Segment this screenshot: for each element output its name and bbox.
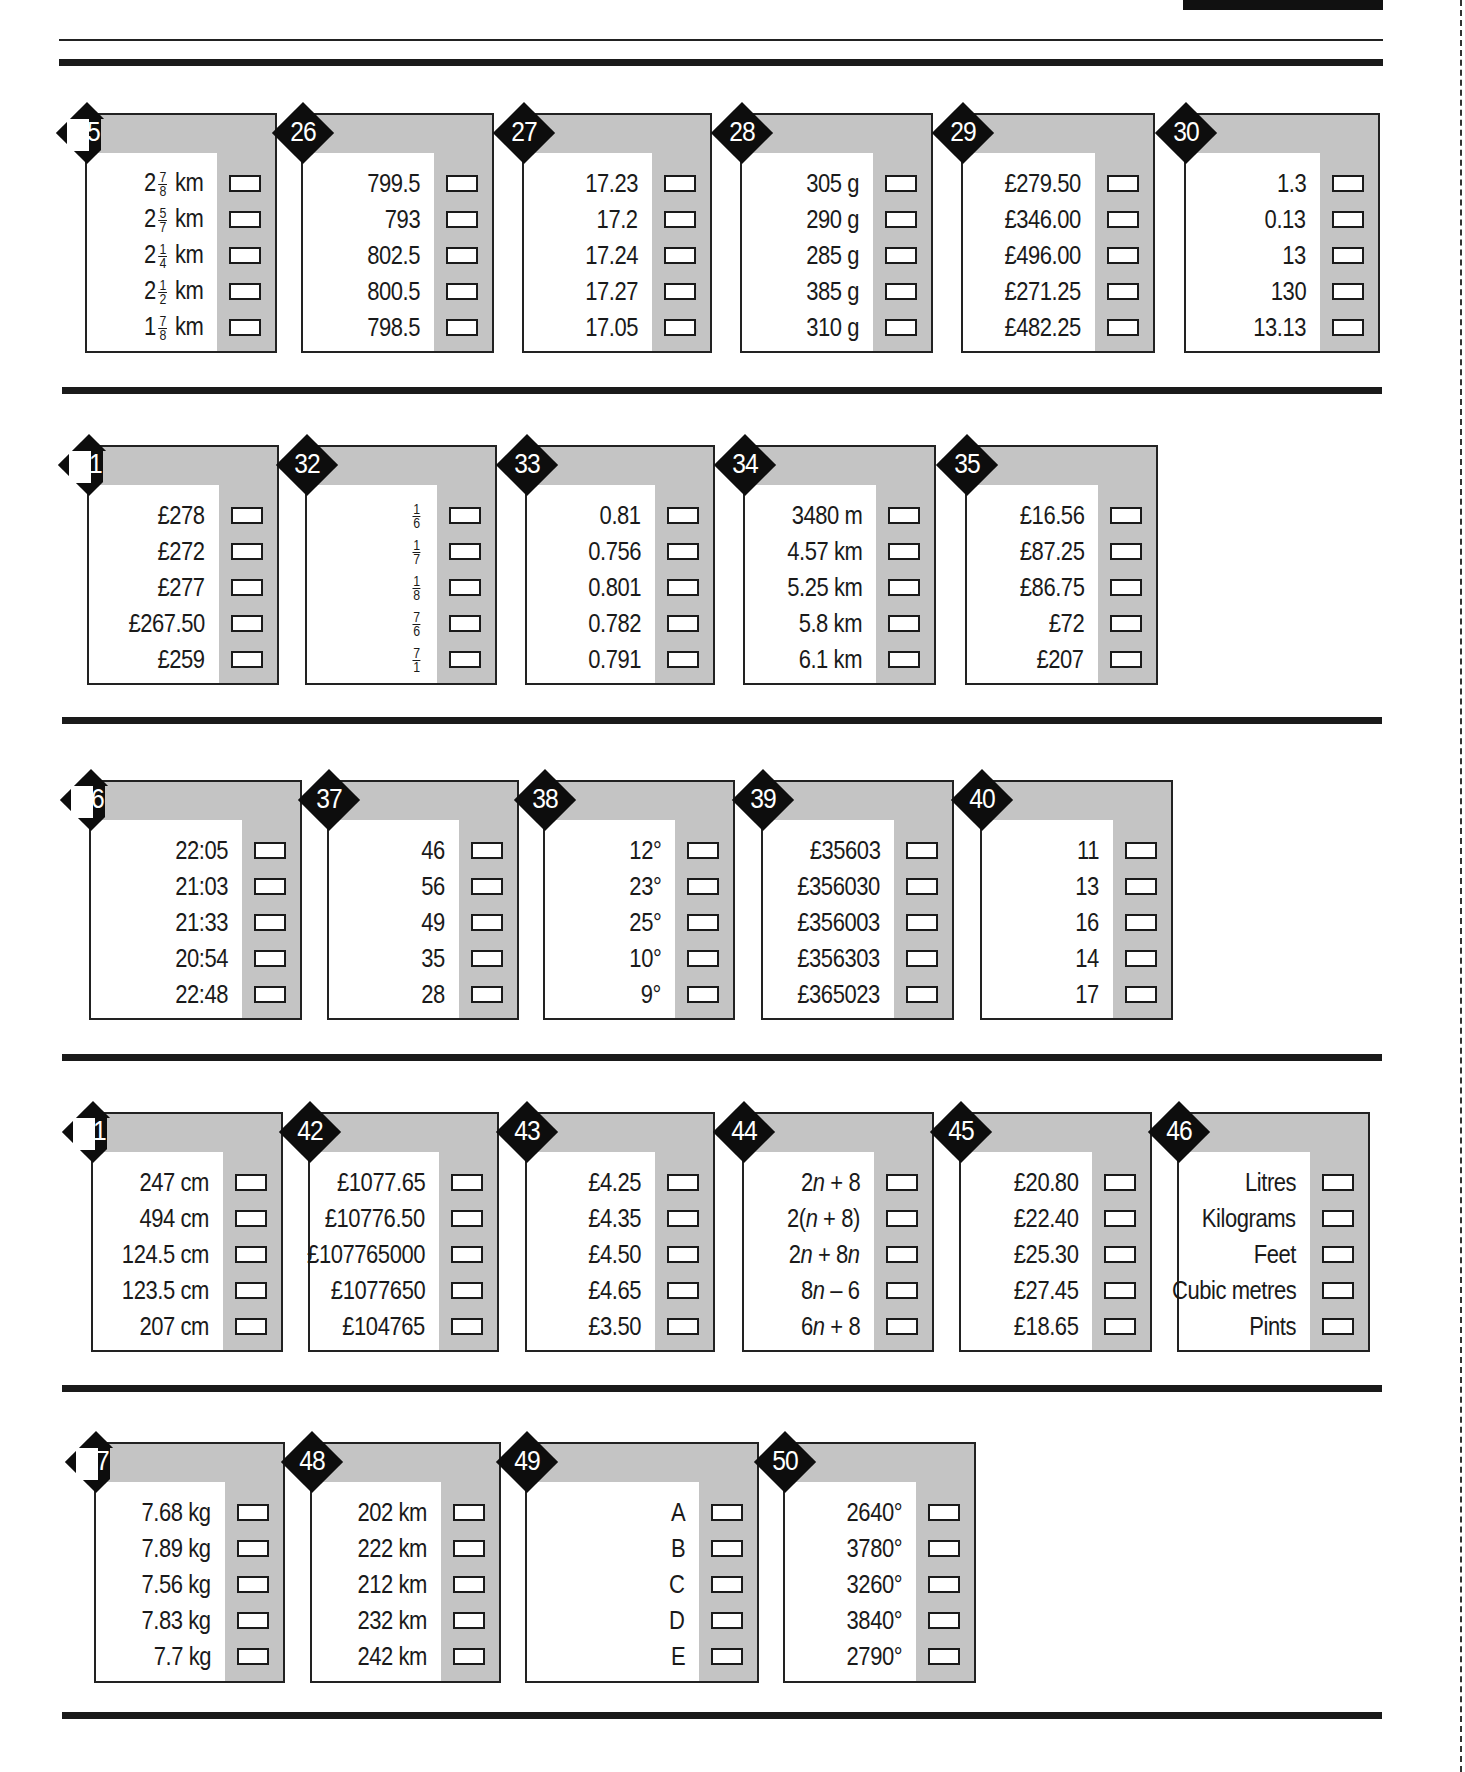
- answer-checkbox[interactable]: [1107, 211, 1139, 228]
- answer-checkbox[interactable]: [1125, 914, 1157, 931]
- answer-checkbox[interactable]: [667, 1282, 699, 1299]
- answer-checkbox[interactable]: [1332, 283, 1364, 300]
- answer-checkbox[interactable]: [928, 1648, 960, 1665]
- answer-checkbox[interactable]: [667, 507, 699, 524]
- answer-checkbox[interactable]: [453, 1648, 485, 1665]
- answer-checkbox[interactable]: [1107, 175, 1139, 192]
- answer-checkbox[interactable]: [888, 651, 920, 668]
- answer-checkbox[interactable]: [888, 543, 920, 560]
- answer-checkbox[interactable]: [254, 842, 286, 859]
- answer-checkbox[interactable]: [453, 1540, 485, 1557]
- answer-checkbox[interactable]: [888, 507, 920, 524]
- answer-checkbox[interactable]: [237, 1612, 269, 1629]
- answer-checkbox[interactable]: [235, 1282, 267, 1299]
- answer-checkbox[interactable]: [451, 1318, 483, 1335]
- answer-checkbox[interactable]: [928, 1540, 960, 1557]
- answer-checkbox[interactable]: [888, 579, 920, 596]
- answer-checkbox[interactable]: [1322, 1282, 1354, 1299]
- answer-checkbox[interactable]: [906, 986, 938, 1003]
- answer-checkbox[interactable]: [687, 878, 719, 895]
- answer-checkbox[interactable]: [1322, 1246, 1354, 1263]
- answer-checkbox[interactable]: [1332, 319, 1364, 336]
- answer-checkbox[interactable]: [667, 1246, 699, 1263]
- answer-checkbox[interactable]: [1110, 651, 1142, 668]
- answer-checkbox[interactable]: [1104, 1282, 1136, 1299]
- answer-checkbox[interactable]: [664, 175, 696, 192]
- answer-checkbox[interactable]: [886, 1318, 918, 1335]
- answer-checkbox[interactable]: [231, 507, 263, 524]
- answer-checkbox[interactable]: [906, 950, 938, 967]
- answer-checkbox[interactable]: [667, 1174, 699, 1191]
- answer-checkbox[interactable]: [885, 175, 917, 192]
- answer-checkbox[interactable]: [1332, 247, 1364, 264]
- answer-checkbox[interactable]: [254, 878, 286, 895]
- answer-checkbox[interactable]: [886, 1282, 918, 1299]
- answer-checkbox[interactable]: [667, 1318, 699, 1335]
- answer-checkbox[interactable]: [1104, 1318, 1136, 1335]
- answer-checkbox[interactable]: [449, 651, 481, 668]
- answer-checkbox[interactable]: [711, 1576, 743, 1593]
- answer-checkbox[interactable]: [687, 986, 719, 1003]
- answer-checkbox[interactable]: [446, 175, 478, 192]
- answer-checkbox[interactable]: [1125, 986, 1157, 1003]
- answer-checkbox[interactable]: [235, 1174, 267, 1191]
- answer-checkbox[interactable]: [237, 1576, 269, 1593]
- answer-checkbox[interactable]: [928, 1504, 960, 1521]
- answer-checkbox[interactable]: [453, 1504, 485, 1521]
- answer-checkbox[interactable]: [1322, 1318, 1354, 1335]
- answer-checkbox[interactable]: [237, 1504, 269, 1521]
- answer-checkbox[interactable]: [235, 1318, 267, 1335]
- answer-checkbox[interactable]: [446, 211, 478, 228]
- answer-checkbox[interactable]: [449, 543, 481, 560]
- answer-checkbox[interactable]: [229, 319, 261, 336]
- answer-checkbox[interactable]: [449, 507, 481, 524]
- answer-checkbox[interactable]: [906, 842, 938, 859]
- answer-checkbox[interactable]: [1125, 878, 1157, 895]
- answer-checkbox[interactable]: [446, 247, 478, 264]
- answer-checkbox[interactable]: [711, 1540, 743, 1557]
- answer-checkbox[interactable]: [1110, 507, 1142, 524]
- answer-checkbox[interactable]: [906, 914, 938, 931]
- answer-checkbox[interactable]: [471, 842, 503, 859]
- answer-checkbox[interactable]: [1107, 283, 1139, 300]
- answer-checkbox[interactable]: [1110, 615, 1142, 632]
- answer-checkbox[interactable]: [886, 1174, 918, 1191]
- answer-checkbox[interactable]: [1104, 1210, 1136, 1227]
- answer-checkbox[interactable]: [231, 543, 263, 560]
- answer-checkbox[interactable]: [667, 543, 699, 560]
- answer-checkbox[interactable]: [471, 914, 503, 931]
- answer-checkbox[interactable]: [235, 1210, 267, 1227]
- answer-checkbox[interactable]: [667, 651, 699, 668]
- answer-checkbox[interactable]: [711, 1612, 743, 1629]
- answer-checkbox[interactable]: [664, 283, 696, 300]
- answer-checkbox[interactable]: [451, 1174, 483, 1191]
- answer-checkbox[interactable]: [1107, 319, 1139, 336]
- answer-checkbox[interactable]: [1110, 579, 1142, 596]
- answer-checkbox[interactable]: [711, 1504, 743, 1521]
- answer-checkbox[interactable]: [254, 914, 286, 931]
- answer-checkbox[interactable]: [453, 1576, 485, 1593]
- answer-checkbox[interactable]: [451, 1282, 483, 1299]
- answer-checkbox[interactable]: [928, 1612, 960, 1629]
- answer-checkbox[interactable]: [928, 1576, 960, 1593]
- answer-checkbox[interactable]: [687, 914, 719, 931]
- answer-checkbox[interactable]: [446, 283, 478, 300]
- answer-checkbox[interactable]: [1322, 1210, 1354, 1227]
- answer-checkbox[interactable]: [888, 615, 920, 632]
- answer-checkbox[interactable]: [664, 319, 696, 336]
- answer-checkbox[interactable]: [451, 1210, 483, 1227]
- answer-checkbox[interactable]: [687, 842, 719, 859]
- answer-checkbox[interactable]: [229, 175, 261, 192]
- answer-checkbox[interactable]: [231, 615, 263, 632]
- answer-checkbox[interactable]: [471, 986, 503, 1003]
- answer-checkbox[interactable]: [237, 1540, 269, 1557]
- answer-checkbox[interactable]: [886, 1246, 918, 1263]
- answer-checkbox[interactable]: [664, 211, 696, 228]
- answer-checkbox[interactable]: [449, 579, 481, 596]
- answer-checkbox[interactable]: [229, 211, 261, 228]
- answer-checkbox[interactable]: [237, 1648, 269, 1665]
- answer-checkbox[interactable]: [1110, 543, 1142, 560]
- answer-checkbox[interactable]: [1125, 950, 1157, 967]
- answer-checkbox[interactable]: [231, 651, 263, 668]
- answer-checkbox[interactable]: [906, 878, 938, 895]
